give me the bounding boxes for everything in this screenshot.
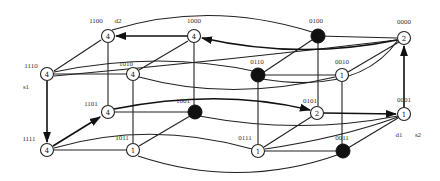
svg-text:4: 4 <box>45 147 50 155</box>
svg-text:1: 1 <box>340 72 344 80</box>
svg-text:1: 1 <box>402 111 406 119</box>
svg-text:4: 4 <box>192 33 197 41</box>
svg-text:0010: 0010 <box>335 58 350 66</box>
svg-text:1000: 1000 <box>187 17 202 25</box>
svg-text:0100: 0100 <box>309 17 324 25</box>
svg-text:0101: 0101 <box>303 97 318 105</box>
node-0001: 1 0001 <box>397 96 412 121</box>
hypercube-diagram: 4 1100 4 1000 0100 2 0000 4 1110 4 1010 … <box>0 0 440 181</box>
svg-text:0000: 0000 <box>397 18 412 26</box>
svg-text:2: 2 <box>315 110 319 118</box>
svg-text:0110: 0110 <box>250 58 264 66</box>
node-1101: 4 1101 <box>84 100 114 119</box>
node-0100: 0100 <box>309 17 325 43</box>
node-1001: 1001 <box>176 97 202 119</box>
svg-text:1010: 1010 <box>119 60 134 68</box>
svg-text:1100: 1100 <box>89 17 103 25</box>
node-0110: 0110 <box>250 58 265 82</box>
annotation-s1: s1 <box>23 83 30 91</box>
node-1000: 4 1000 <box>187 17 202 43</box>
svg-text:1110: 1110 <box>24 62 38 70</box>
annotation-d1: d1 <box>396 131 404 139</box>
node-0111: 1 0111 <box>238 134 264 158</box>
svg-text:1011: 1011 <box>115 134 129 142</box>
node-0011: 0011 <box>335 134 350 158</box>
node-1010: 4 1010 <box>119 60 140 81</box>
svg-text:4: 4 <box>45 71 50 79</box>
svg-text:1: 1 <box>256 148 260 156</box>
svg-text:0001: 0001 <box>397 96 412 104</box>
svg-text:0011: 0011 <box>335 134 349 142</box>
edges-directed <box>47 36 404 146</box>
annotation-s2: s2 <box>415 131 422 139</box>
node-1011: 1 1011 <box>115 134 139 157</box>
node-0010: 1 0010 <box>335 58 350 82</box>
node-1110: 4 1110 <box>24 62 53 81</box>
svg-text:1111: 1111 <box>22 135 36 143</box>
annotation-d2: d2 <box>115 17 123 25</box>
svg-text:0111: 0111 <box>238 134 252 142</box>
node-1100: 4 1100 <box>89 17 114 43</box>
svg-text:2: 2 <box>402 35 406 43</box>
svg-text:1: 1 <box>131 147 135 155</box>
node-0000: 2 0000 <box>397 18 412 45</box>
node-1111: 4 1111 <box>22 135 53 157</box>
svg-text:1101: 1101 <box>84 100 98 108</box>
svg-text:4: 4 <box>106 33 111 41</box>
svg-text:1001: 1001 <box>176 97 191 105</box>
svg-text:4: 4 <box>106 109 111 117</box>
svg-text:4: 4 <box>131 71 136 79</box>
